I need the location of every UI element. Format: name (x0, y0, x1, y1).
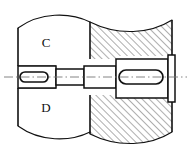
housing-lower-hatched-region (90, 95, 172, 144)
label-d: D (41, 100, 50, 115)
technical-drawing-canvas: C D (0, 0, 191, 154)
left-body-upper-outline (18, 15, 90, 28)
label-c: C (42, 35, 51, 50)
left-body-lower-outline (18, 126, 90, 139)
shaft-step-5-collar (168, 55, 175, 102)
sectional-assembly-drawing: C D (0, 0, 191, 154)
